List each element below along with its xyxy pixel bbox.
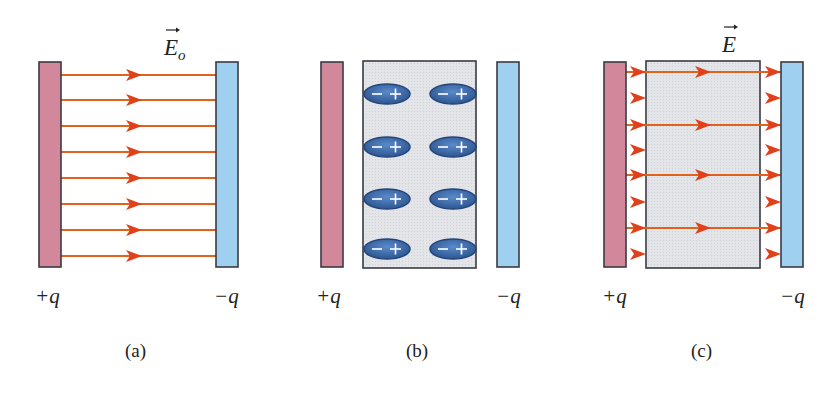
dipole <box>364 239 410 259</box>
dipole-ellipse <box>364 239 410 259</box>
panel-a-diagram <box>39 62 238 267</box>
dipole-ellipse <box>430 137 476 157</box>
figure-canvas <box>0 0 839 394</box>
arrowhead-left-gap <box>630 248 646 260</box>
field-label-e: E <box>722 33 736 56</box>
negative-plate <box>216 62 238 267</box>
dielectric-slab <box>646 61 760 268</box>
dipole <box>364 84 410 104</box>
right-charge-label-b: −q <box>496 286 521 307</box>
dipole-ellipse <box>364 137 410 157</box>
arrowhead-right-gap <box>765 248 781 260</box>
dipole <box>430 239 476 259</box>
arrowhead-left-gap <box>630 144 646 156</box>
dipole-ellipse <box>364 84 410 104</box>
arrowhead-left-gap <box>630 196 646 208</box>
field-symbol: E <box>164 35 178 60</box>
caption-a: (a) <box>125 341 146 360</box>
dipole <box>430 137 476 157</box>
left-charge-label-c: +q <box>602 286 627 307</box>
field-subscript: o <box>178 47 186 63</box>
negative-plate <box>497 62 519 267</box>
dipole-ellipse <box>430 239 476 259</box>
left-charge-label-a: +q <box>35 286 60 307</box>
arrowhead-left-gap <box>630 92 646 104</box>
negative-plate <box>781 62 803 267</box>
dipole <box>430 84 476 104</box>
arrowhead-right-gap <box>765 196 781 208</box>
capacitor-dielectric-figure: Eo +q −q (a) +q −q (b) E +q −q (c) <box>0 0 839 394</box>
positive-plate <box>39 62 61 267</box>
panel-c-diagram <box>604 61 803 268</box>
caption-b: (b) <box>406 341 428 360</box>
dipole-ellipse <box>430 84 476 104</box>
dipole-ellipse <box>364 189 410 209</box>
dipole-ellipse <box>430 189 476 209</box>
dipole <box>364 189 410 209</box>
positive-plate <box>321 62 343 267</box>
vector-arrow-icon <box>166 27 180 33</box>
vector-arrow-icon <box>724 24 738 30</box>
field-symbol: E <box>722 32 736 57</box>
caption-c: (c) <box>691 341 712 360</box>
positive-plate <box>604 62 626 267</box>
field-label-e0: Eo <box>164 36 186 59</box>
dipole <box>430 189 476 209</box>
dipole <box>364 137 410 157</box>
right-charge-label-a: −q <box>214 286 239 307</box>
left-charge-label-b: +q <box>316 286 341 307</box>
right-charge-label-c: −q <box>780 286 805 307</box>
arrowhead-right-gap <box>765 92 781 104</box>
arrowhead-right-gap <box>765 144 781 156</box>
panel-b-diagram <box>321 61 519 268</box>
